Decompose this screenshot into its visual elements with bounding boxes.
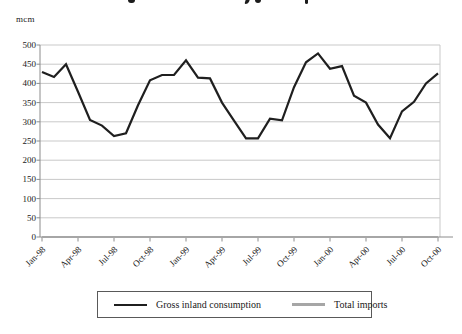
y-tick-label: 150 (23, 174, 37, 184)
x-tick-label: Jul-00 (384, 244, 407, 267)
legend-entry-total-imports: Total imports (292, 299, 387, 310)
line-chart: 050100150200250300350400450500Jan-98Apr-… (0, 0, 462, 334)
y-tick-label: 400 (23, 78, 37, 88)
x-tick-label: Jan-98 (23, 244, 47, 268)
y-tick-label: 50 (27, 213, 37, 223)
x-tick-label: Apr-99 (202, 244, 228, 270)
imports-line-swatch (292, 303, 325, 306)
legend-label: Total imports (334, 299, 387, 310)
y-tick-label: 100 (23, 194, 37, 204)
x-tick-label: Apr-98 (58, 244, 84, 270)
y-tick-label: 350 (23, 98, 37, 108)
y-tick-label: 250 (23, 136, 37, 146)
consumption-line (42, 53, 438, 138)
x-tick-label: Oct-00 (419, 244, 444, 269)
y-tick-label: 450 (23, 59, 37, 69)
x-tick-label: Apr-00 (346, 244, 372, 270)
y-tick-label: 500 (23, 40, 37, 50)
x-tick-label: Jan-99 (167, 244, 191, 268)
y-tick-label: 200 (23, 155, 37, 165)
y-tick-label: 300 (23, 117, 37, 127)
x-tick-label: Jul-99 (240, 244, 263, 267)
legend-label: Gross inland consumption (156, 299, 261, 310)
chart-legend: Gross inland consumption Total imports (97, 291, 372, 318)
legend-entry-gross-inland-consumption: Gross inland consumption (114, 299, 261, 310)
consumption-line-swatch (114, 304, 147, 306)
x-tick-label: Jan-00 (311, 244, 335, 268)
y-tick-label: 0 (32, 232, 37, 242)
x-tick-label: Oct-99 (275, 244, 300, 269)
x-tick-label: Jul-98 (96, 244, 119, 267)
x-tick-label: Oct-98 (131, 244, 156, 269)
